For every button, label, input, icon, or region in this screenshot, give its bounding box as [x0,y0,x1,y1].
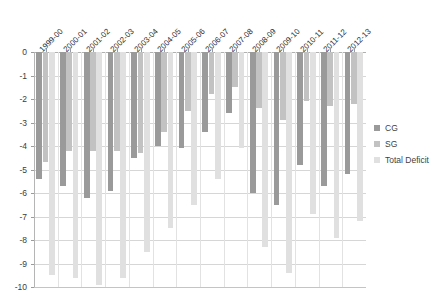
legend-item-total-deficit[interactable]: Total Deficit [374,152,429,168]
y-axis-tick-label: -1 [0,71,27,80]
y-axis-tick-mark [31,146,34,147]
bar-sg-2010-11 [304,52,310,101]
y-axis-tick-label: -9 [0,259,27,268]
x-axis-tick-label: 2002-03 [109,28,135,54]
bar-cg-2011-12 [321,52,327,186]
x-axis-tick-label: 2011-12 [323,28,349,54]
x-axis-tick-label: 2005-06 [180,28,206,54]
vertical-gridline [247,52,248,287]
legend-label: Total Deficit [385,156,429,165]
y-axis-tick-mark [31,287,34,288]
legend-item-sg[interactable]: SG [374,136,429,152]
vertical-gridline [342,52,343,287]
bar-sg-2005-06 [185,52,191,111]
bar-total-deficit-2005-06 [191,52,197,205]
bar-cg-2004-05 [155,52,161,146]
gridline [34,287,366,288]
y-axis-tick-mark [31,76,34,77]
bar-total-deficit-2002-03 [120,52,126,278]
x-axis-tick-label: 2009-10 [275,28,301,54]
y-axis-tick-mark [31,170,34,171]
bar-sg-2009-10 [280,52,286,120]
x-axis-tick-label: 2003-04 [133,28,159,54]
bar-cg-2009-10 [274,52,280,205]
bar-cg-2000-01 [60,52,66,186]
legend-label: SG [385,140,397,149]
vertical-gridline [58,52,59,287]
vertical-gridline [224,52,225,287]
chart-legend: CGSGTotal Deficit [374,120,429,168]
bar-total-deficit-2007-08 [239,52,245,148]
y-axis-tick-label: -5 [0,165,27,174]
bar-total-deficit-2001-02 [96,52,102,285]
y-axis-tick-mark [31,52,34,53]
legend-swatch-icon [374,141,380,147]
y-axis-tick-label: -2 [0,95,27,104]
bar-total-deficit-2008-09 [262,52,268,247]
y-axis-tick-label: -8 [0,236,27,245]
x-axis-tick-label: 2006-07 [204,28,230,54]
y-axis-line [34,52,35,287]
y-axis-tick-label: -7 [0,212,27,221]
y-axis-tick-mark [31,264,34,265]
x-axis-tick-label: 2010-11 [299,28,325,54]
bar-sg-2001-02 [90,52,96,151]
bar-cg-2007-08 [226,52,232,113]
vertical-gridline [176,52,177,287]
bar-cg-1999-00 [36,52,42,179]
vertical-gridline [105,52,106,287]
vertical-gridline [129,52,130,287]
x-axis-tick-label: 2008-09 [252,28,278,54]
bar-total-deficit-2003-04 [144,52,150,252]
bar-cg-2012-13 [345,52,351,174]
y-axis-tick-label: -4 [0,142,27,151]
legend-item-cg[interactable]: CG [374,120,429,136]
vertical-gridline [200,52,201,287]
vertical-gridline [295,52,296,287]
bar-cg-2002-03 [108,52,114,191]
legend-swatch-icon [374,125,380,131]
y-axis-tick-label: -10 [0,283,27,292]
bar-sg-2002-03 [114,52,120,151]
x-axis-tick-label: 2004-05 [157,28,183,54]
bar-sg-2003-04 [138,52,144,153]
bar-total-deficit-2010-11 [310,52,316,214]
vertical-gridline [81,52,82,287]
bar-cg-2010-11 [297,52,303,165]
bar-total-deficit-2011-12 [334,52,340,238]
x-axis-tick-label: 2012-13 [346,28,372,54]
y-axis-tick-mark [31,193,34,194]
y-axis-tick-mark [31,217,34,218]
bar-sg-2006-07 [209,52,215,94]
vertical-gridline [153,52,154,287]
bar-sg-1999-00 [43,52,49,162]
bar-cg-2003-04 [131,52,137,158]
bar-sg-2000-01 [66,52,72,151]
plot-area [34,52,366,287]
y-axis-tick-mark [31,123,34,124]
y-axis-tick-label: 0 [0,48,27,57]
bar-cg-2005-06 [179,52,185,148]
bar-sg-2011-12 [327,52,333,106]
bar-total-deficit-2004-05 [168,52,174,228]
bar-sg-2007-08 [232,52,238,87]
y-axis-tick-label: -3 [0,118,27,127]
bar-total-deficit-2006-07 [215,52,221,179]
bar-sg-2008-09 [256,52,262,108]
x-axis-tick-label: 2000-01 [62,28,88,54]
bar-total-deficit-2000-01 [73,52,79,278]
fiscal-deficit-bar-chart: 0-1-2-3-4-5-6-7-8-9-10 1999-002000-01200… [0,0,446,298]
y-axis-tick-mark [31,240,34,241]
legend-swatch-icon [374,157,380,163]
legend-label: CG [385,124,398,133]
bar-total-deficit-2012-13 [357,52,363,221]
bar-sg-2004-05 [161,52,167,132]
bar-cg-2006-07 [202,52,208,132]
x-axis-tick-label: 2001-02 [86,28,112,54]
bar-total-deficit-1999-00 [49,52,55,275]
x-axis-tick-label: 2007-08 [228,28,254,54]
x-axis-tick-label: 1999-00 [38,28,64,54]
vertical-gridline [319,52,320,287]
bar-total-deficit-2009-10 [286,52,292,273]
vertical-gridline [271,52,272,287]
